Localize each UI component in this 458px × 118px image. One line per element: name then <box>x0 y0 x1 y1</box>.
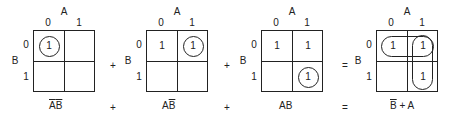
cell-r1c1: 1 <box>417 72 429 82</box>
var-b-label: B <box>352 56 364 66</box>
var-a-label: A <box>286 7 298 17</box>
plus-operator: + <box>108 61 118 71</box>
plus-operator: + <box>222 103 232 113</box>
cell-r1c1: 1 <box>302 72 314 82</box>
row-1-label: 1 <box>363 72 375 82</box>
term-expression: AB <box>49 100 62 112</box>
plus-operator: + <box>222 61 232 71</box>
equals-operator: = <box>340 103 350 113</box>
term-expression: AB <box>162 100 175 112</box>
row-1-label: 1 <box>133 72 145 82</box>
var-b-label: B <box>122 56 134 66</box>
cell-r0c1: 1 <box>302 41 314 51</box>
cell-r0c0: 1 <box>156 41 168 51</box>
row-0-label: 0 <box>133 40 145 50</box>
var-b-label: B <box>237 56 249 66</box>
cell-r0c1: 1 <box>417 41 429 51</box>
row-0-label: 0 <box>20 40 32 50</box>
row-0-label: 0 <box>363 40 375 50</box>
term-expression: AB <box>279 100 292 112</box>
col-0-label: 0 <box>270 18 282 28</box>
grid-divider <box>262 61 322 62</box>
result-expression: B + A <box>390 100 414 112</box>
kmap-4-simplified: A 0 1 0 B 1 1 1 1 B + A <box>376 0 458 118</box>
kmap-grid: 1 1 1 <box>376 30 438 92</box>
equals-operator: = <box>340 61 350 71</box>
col-1-label: 1 <box>301 18 313 28</box>
col-0-label: 0 <box>155 18 167 28</box>
col-1-label: 1 <box>73 18 85 28</box>
var-b-label: B <box>9 56 21 66</box>
kmap-grid: 1 1 1 <box>261 30 323 92</box>
var-a-label: A <box>58 7 70 17</box>
var-a-label: A <box>171 7 183 17</box>
row-1-label: 1 <box>20 72 32 82</box>
col-0-label: 0 <box>42 18 54 28</box>
plus-operator: + <box>108 103 118 113</box>
cell-r0c0: 1 <box>271 41 283 51</box>
kmap-grid: 1 <box>33 30 95 92</box>
grid-divider <box>34 61 94 62</box>
row-1-label: 1 <box>248 72 260 82</box>
col-0-label: 0 <box>385 18 397 28</box>
grid-divider <box>147 61 207 62</box>
row-0-label: 0 <box>248 40 260 50</box>
cell-r0c1: 1 <box>187 41 199 51</box>
cell-r0c0: 1 <box>387 41 399 51</box>
col-1-label: 1 <box>416 18 428 28</box>
col-1-label: 1 <box>186 18 198 28</box>
var-a-label: A <box>401 7 413 17</box>
kmap-grid: 1 1 <box>146 30 208 92</box>
cell-r0c0: 1 <box>43 41 55 51</box>
